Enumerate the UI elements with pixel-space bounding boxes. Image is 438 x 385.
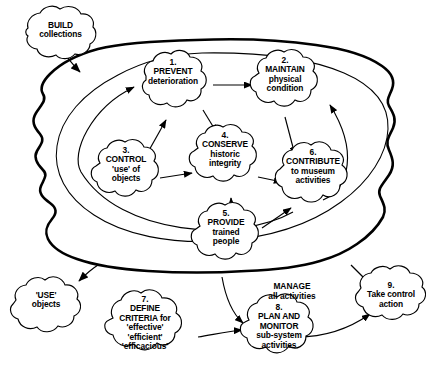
node-use-objects-shape[interactable] [11, 277, 81, 332]
node-build-collections-shape[interactable] [26, 6, 96, 58]
edge-boundary-to-n8 [222, 277, 243, 323]
edge-n7-to-n8 [198, 330, 242, 337]
node-n9-shape[interactable] [356, 266, 426, 320]
edge-boundary-to-use [79, 265, 98, 281]
node-n8-shape[interactable] [240, 294, 313, 353]
node-n7-shape[interactable] [105, 290, 182, 350]
conceptual-model-diagram [0, 0, 438, 385]
